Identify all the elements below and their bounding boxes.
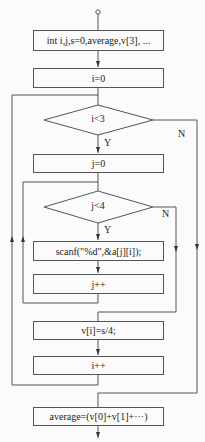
decision-j-text: j<4 — [68, 200, 128, 211]
start-node-icon — [96, 10, 100, 14]
inc-j-box: j++ — [33, 274, 164, 294]
decision-i-text: i<3 — [68, 113, 128, 124]
column-average-box: v[i]=s/4; — [33, 321, 164, 340]
cond-i-yes-label: Y — [104, 137, 111, 148]
declare-variables-box: int i,j,s=0,average,v[3], ... — [33, 30, 164, 51]
scanf-box: scanf("%d",&a[j][i]); — [33, 241, 164, 261]
flowchart-connectors — [0, 0, 205, 442]
init-i-box: i=0 — [33, 68, 164, 88]
inc-i-box: i++ — [33, 356, 164, 375]
overall-average-box: average=(v[0]+v[1]+···) — [33, 407, 164, 426]
cond-j-no-label: N — [162, 208, 169, 219]
cond-j-yes-label: Y — [104, 224, 111, 235]
init-j-box: j=0 — [33, 154, 164, 173]
cond-i-no-label: N — [178, 128, 185, 139]
